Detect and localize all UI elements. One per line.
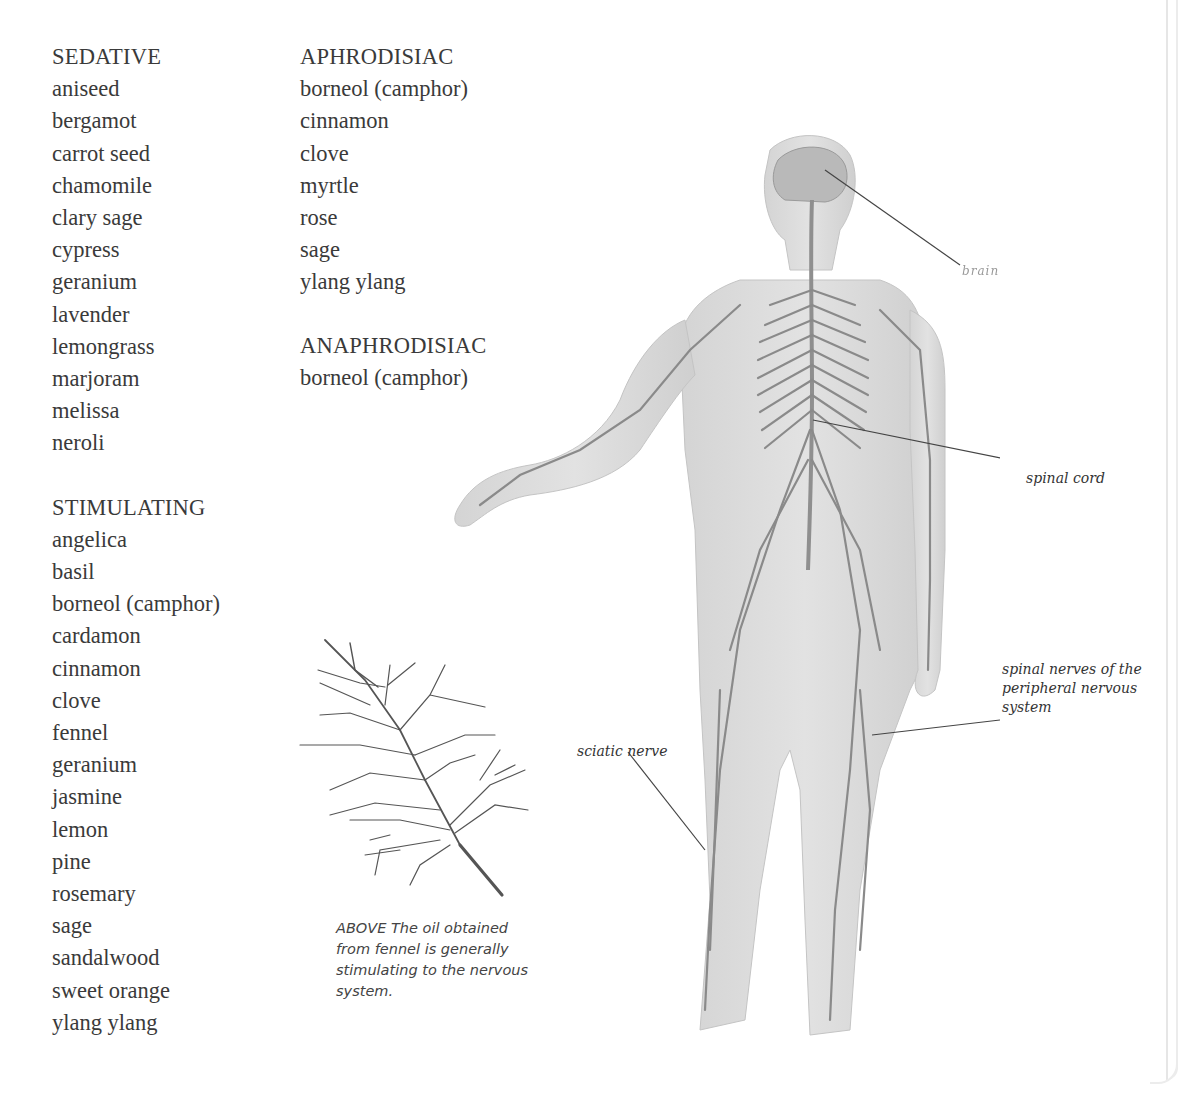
sciatic-nerve-label: sciatic nerve	[577, 742, 667, 761]
nervous-system-illustration	[440, 130, 1000, 1050]
list-item: lemongrass	[52, 331, 220, 363]
list-item: cardamon	[52, 620, 220, 652]
list-item: angelica	[52, 524, 220, 556]
list-item: cypress	[52, 234, 220, 266]
list-item: clove	[52, 685, 220, 717]
list-item: clary sage	[52, 202, 220, 234]
brain-label: brain	[962, 262, 999, 281]
sedative-heading: SEDATIVE	[52, 41, 220, 73]
list-item: jasmine	[52, 781, 220, 813]
list-item: borneol (camphor)	[300, 73, 486, 105]
list-item: melissa	[52, 395, 220, 427]
list-item: neroli	[52, 427, 220, 459]
aphrodisiac-heading: APHRODISIAC	[300, 41, 486, 73]
list-item: fennel	[52, 717, 220, 749]
spinal-cord-label: spinal cord	[1026, 469, 1105, 488]
page-edge-decoration	[1166, 0, 1178, 1080]
stimulating-group: STIMULATING angelica basil borneol (camp…	[52, 492, 220, 1039]
oil-list-left-column: SEDATIVE aniseed bergamot carrot seed ch…	[52, 41, 220, 1039]
list-item: lavender	[52, 299, 220, 331]
stimulating-heading: STIMULATING	[52, 492, 220, 524]
list-item: cinnamon	[52, 653, 220, 685]
list-item: geranium	[52, 266, 220, 298]
list-item: sage	[52, 910, 220, 942]
spinal-nerves-label: spinal nerves of the peripheral nervous …	[1002, 660, 1162, 717]
list-item: bergamot	[52, 105, 220, 137]
list-item: aniseed	[52, 73, 220, 105]
list-item: sweet orange	[52, 975, 220, 1007]
list-item: basil	[52, 556, 220, 588]
list-item: ylang ylang	[52, 1007, 220, 1039]
list-item: pine	[52, 846, 220, 878]
list-item: rosemary	[52, 878, 220, 910]
list-item: borneol (camphor)	[52, 588, 220, 620]
list-item: geranium	[52, 749, 220, 781]
list-item: marjoram	[52, 363, 220, 395]
sedative-group: SEDATIVE aniseed bergamot carrot seed ch…	[52, 41, 220, 460]
list-item: sandalwood	[52, 942, 220, 974]
list-item: chamomile	[52, 170, 220, 202]
list-item: carrot seed	[52, 138, 220, 170]
list-item: lemon	[52, 814, 220, 846]
